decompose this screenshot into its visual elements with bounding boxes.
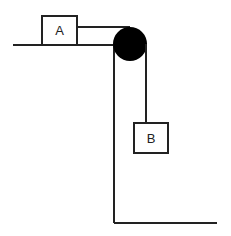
block-b: B (134, 123, 168, 153)
pulley (113, 27, 147, 61)
block-a-label: A (55, 23, 64, 38)
block-b-label: B (147, 131, 156, 146)
pulley-diagram: A B (0, 0, 231, 236)
block-a: A (42, 16, 77, 45)
